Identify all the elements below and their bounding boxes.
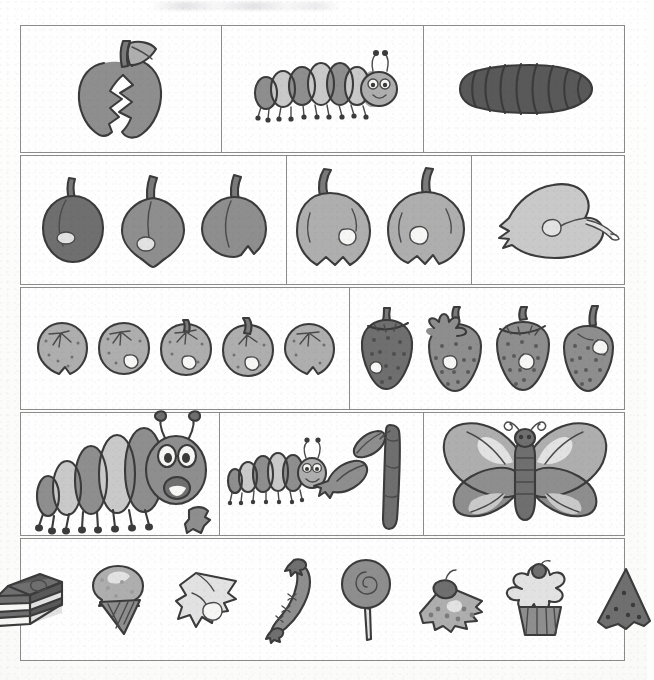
panel-four-strawberries[interactable]: [349, 288, 626, 409]
plum-illustration: [114, 172, 192, 268]
row-oranges-strawberries: [20, 287, 625, 410]
apple-illustration: [284, 165, 380, 275]
cupcake-illustration: [508, 563, 570, 637]
plum-illustration: [196, 172, 272, 268]
panel-items: [222, 26, 423, 152]
orange-illustration: [220, 317, 276, 381]
row-big-caterpillar-leaf-butterfly: [20, 412, 625, 536]
panel-items: [21, 26, 221, 152]
caterpillar-small-illustration: [247, 49, 399, 129]
panel-items: [424, 26, 626, 152]
panel-items: [350, 288, 626, 409]
scanner-smudge-artifact: [150, 2, 340, 10]
panel-pear[interactable]: [471, 156, 626, 284]
row-plums-apples-pear: [20, 155, 625, 285]
swiss-cheese-illustration: [174, 569, 242, 631]
row-egg-and-caterpillar: [20, 25, 625, 153]
orange-illustration: [96, 319, 152, 379]
chocolate-cake-illustration: [0, 570, 66, 630]
panel-items: [21, 539, 626, 660]
strawberry-illustration: [360, 306, 416, 392]
panel-items: [21, 156, 286, 284]
orange-illustration: [34, 319, 90, 379]
panel-saturday-foods[interactable]: [21, 539, 626, 660]
panel-big-caterpillar[interactable]: [21, 413, 219, 535]
strawberry-illustration: [494, 306, 552, 392]
apple-illustration: [382, 165, 474, 275]
panel-items: [21, 288, 349, 409]
panel-caterpillar-small[interactable]: [221, 26, 423, 152]
cherry-pie-illustration: [414, 569, 486, 631]
lollipop-illustration: [340, 558, 392, 642]
caterpillar-eating-leaf-illustration: [224, 417, 420, 531]
strawberry-illustration: [562, 306, 616, 392]
sausage-illustration: [264, 558, 318, 642]
butterfly-illustration: [437, 416, 613, 532]
ice-cream-cone-illustration: [88, 562, 152, 638]
panel-five-oranges[interactable]: [21, 288, 349, 409]
bitten-apple-illustration: [66, 35, 176, 143]
caterpillar-big-illustration: [29, 412, 211, 536]
panel-items: [424, 413, 626, 535]
panel-three-plums[interactable]: [21, 156, 286, 284]
panel-caterpillar-eating-leaf[interactable]: [219, 413, 423, 535]
cocoon-illustration: [450, 53, 600, 125]
panel-items: [220, 413, 423, 535]
panel-items: [21, 413, 219, 535]
panel-items: [287, 156, 471, 284]
plum-illustration: [36, 172, 110, 268]
row-saturday-feast: [20, 538, 625, 661]
pear-illustration: [475, 172, 623, 268]
strawberry-illustration: [426, 306, 484, 392]
picture-grid: [20, 25, 625, 661]
panel-two-apples[interactable]: [286, 156, 471, 284]
panel-items: [472, 156, 626, 284]
orange-illustration: [282, 319, 336, 379]
orange-illustration: [158, 318, 214, 380]
panel-butterfly[interactable]: [423, 413, 626, 535]
watermelon-illustration: [592, 567, 654, 633]
panel-bitten-apple[interactable]: [21, 26, 221, 152]
panel-cocoon[interactable]: [423, 26, 626, 152]
